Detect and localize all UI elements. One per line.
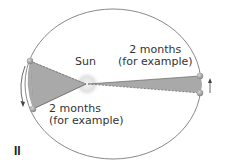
sector-top-right-label: 2 months (for example) [118, 44, 193, 68]
sector-bottom-left-line2: (for example) [49, 115, 124, 127]
orbit-diagram [0, 0, 227, 168]
motion-arrow-right-icon [208, 78, 212, 93]
planet-right-top [197, 73, 203, 79]
planet-left-top [27, 58, 33, 64]
planet-left-bottom [30, 106, 36, 112]
sector-top-right-line2: (for example) [118, 56, 193, 68]
planet-right-bottom [197, 90, 203, 96]
sector-far-from-sun [88, 76, 202, 93]
sector-bottom-left-label: 2 months (for example) [49, 103, 124, 127]
panel-label: II [14, 144, 21, 158]
motion-arrow-left-icon [21, 66, 26, 107]
sun-label: Sun [75, 56, 96, 68]
